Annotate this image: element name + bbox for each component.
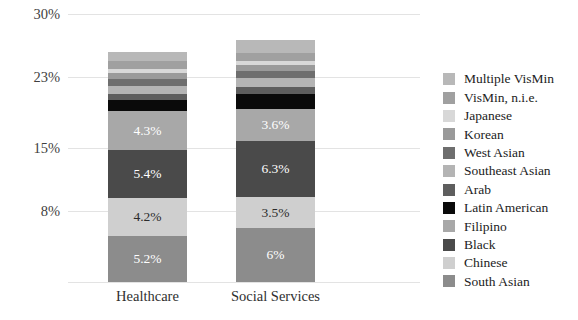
y-axis-tick-label: 30% [2,6,60,23]
legend-item[interactable]: Multiple VisMin [443,70,575,88]
y-axis-tick-label: 8% [2,202,60,219]
legend-label: Multiple VisMin [464,72,554,86]
bar-segment[interactable] [236,40,315,53]
legend-swatch [443,275,455,287]
legend-label: VisMin, n.i.e. [464,91,538,105]
y-axis-tick-label: 23% [2,68,60,85]
bar-segment-value-label: 5.4% [108,166,187,182]
bar-segment-value-label: 4.2% [108,209,187,225]
legend-item[interactable]: Korean [443,125,575,143]
legend-label: Latin American [464,201,548,215]
bar-segment[interactable]: 5.4% [108,150,187,198]
bar-segment[interactable]: 4.2% [108,198,187,236]
bar-segment[interactable]: 5.2% [108,236,187,282]
legend-item[interactable]: Japanese [443,107,575,125]
x-axis-category-label: Social Services [196,288,355,305]
bar-segment[interactable]: 6% [236,228,315,282]
bar-social-services[interactable]: 3.6%6.3%3.5%6% [236,40,315,282]
bar-segment[interactable] [108,100,187,112]
bar-segment-value-label: 3.6% [236,117,315,133]
legend-label: West Asian [464,146,525,160]
legend-label: Black [464,238,496,252]
legend-label: Chinese [464,256,508,270]
legend-swatch [443,239,455,251]
legend-item[interactable]: VisMin, n.i.e. [443,88,575,106]
legend-swatch [443,147,455,159]
bar-segment[interactable]: 4.3% [108,111,187,149]
legend-swatch [443,92,455,104]
stacked-bar-chart: 30%23%15%8% 4.3%5.4%4.2%5.2%3.6%6.3%3.5%… [0,0,578,320]
bar-segment-value-label: 3.5% [236,205,315,221]
legend-label: South Asian [464,275,530,289]
legend-label: Filipino [464,220,507,234]
legend-swatch [443,184,455,196]
y-axis: 30%23%15%8% [2,14,60,282]
legend-item[interactable]: Chinese [443,254,575,272]
legend-item[interactable]: Southeast Asian [443,162,575,180]
legend-label: Korean [464,128,504,142]
legend-swatch [443,128,455,140]
legend-label: Southeast Asian [464,164,551,178]
bar-segment[interactable] [108,61,187,69]
legend-swatch [443,202,455,214]
legend-label: Arab [464,183,491,197]
legend-item[interactable]: South Asian [443,272,575,290]
bar-segment[interactable]: 3.6% [236,109,315,141]
bar-segment-value-label: 4.3% [108,123,187,139]
legend-swatch [443,110,455,122]
bar-segment-value-label: 6% [236,247,315,263]
bar-segment[interactable] [236,53,315,61]
legend: Multiple VisMinVisMin, n.i.e.JapaneseKor… [443,70,575,291]
legend-item[interactable]: Arab [443,180,575,198]
legend-label: Japanese [464,109,512,123]
y-axis-tick-label: 15% [2,140,60,157]
legend-swatch [443,257,455,269]
plot-area: 4.3%5.4%4.2%5.2%3.6%6.3%3.5%6% [68,14,420,282]
bar-segment[interactable] [236,71,315,78]
bar-segment[interactable]: 6.3% [236,141,315,197]
bar-segment[interactable] [236,78,315,87]
legend-item[interactable]: Latin American [443,199,575,217]
legend-item[interactable]: Black [443,236,575,254]
legend-swatch [443,220,455,232]
legend-item[interactable]: West Asian [443,144,575,162]
bar-segment[interactable] [236,94,315,108]
bar-segment[interactable] [236,87,315,94]
gridline-baseline [68,282,420,283]
legend-swatch [443,73,455,85]
bar-segment[interactable] [108,86,187,94]
bar-segment-value-label: 6.3% [236,161,315,177]
bar-segment[interactable] [108,52,187,60]
legend-swatch [443,165,455,177]
bar-healthcare[interactable]: 4.3%5.4%4.2%5.2% [108,52,187,282]
gridline [68,14,420,15]
bar-segment[interactable]: 3.5% [236,197,315,228]
legend-item[interactable]: Filipino [443,217,575,235]
bar-segment-value-label: 5.2% [108,251,187,267]
